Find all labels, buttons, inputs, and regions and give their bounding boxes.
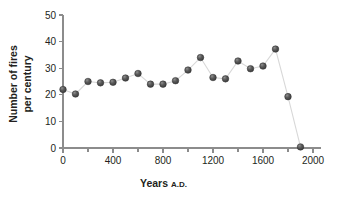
y-axis-title-line2: per century — [21, 55, 33, 112]
data-point — [260, 63, 267, 70]
x-axis-tick-labels: 0400800120016002000 — [60, 155, 324, 166]
data-point — [147, 81, 154, 88]
x-axis-title-main: Years — [140, 177, 168, 189]
data-point — [85, 78, 92, 85]
y-axis-tick-labels: 01020304050 — [45, 10, 57, 154]
data-point — [60, 86, 67, 93]
data-point — [160, 81, 167, 88]
y-tick-label: 50 — [45, 10, 57, 21]
data-point — [285, 93, 292, 100]
data-point — [222, 76, 229, 83]
x-tick-label: 400 — [105, 155, 122, 166]
data-point — [135, 70, 142, 77]
data-point — [110, 79, 117, 86]
data-point — [97, 80, 104, 87]
x-tick-label: 1200 — [202, 155, 225, 166]
fires-per-century-scatter-chart: 01020304050 0400800120016002000 Number o… — [0, 0, 347, 198]
x-axis-title-suffix: A.D. — [171, 180, 187, 189]
y-tick-label: 0 — [50, 143, 56, 154]
data-point — [210, 74, 217, 81]
x-axis-title: Years A.D. — [140, 177, 187, 189]
y-axis-ticks — [59, 15, 63, 148]
x-tick-label: 800 — [155, 155, 172, 166]
data-point — [297, 144, 304, 151]
data-point — [197, 54, 204, 61]
y-tick-label: 10 — [45, 116, 57, 127]
data-point — [235, 58, 242, 65]
x-tick-label: 2000 — [302, 155, 325, 166]
y-axis-title: Number of fires per century — [7, 45, 33, 123]
data-point — [185, 67, 192, 74]
data-point-markers — [60, 46, 304, 150]
x-tick-label: 0 — [60, 155, 66, 166]
data-point — [272, 46, 279, 53]
x-tick-label: 1600 — [252, 155, 275, 166]
y-tick-label: 40 — [45, 36, 57, 47]
data-point — [122, 75, 129, 82]
y-tick-label: 20 — [45, 89, 57, 100]
data-point — [172, 77, 179, 84]
data-point — [72, 91, 79, 98]
y-tick-label: 30 — [45, 63, 57, 74]
data-point — [247, 65, 254, 72]
y-axis-title-line1: Number of fires — [7, 45, 19, 123]
chart-figure: 01020304050 0400800120016002000 Number o… — [0, 0, 347, 198]
cut-off-caption — [6, 0, 306, 6]
